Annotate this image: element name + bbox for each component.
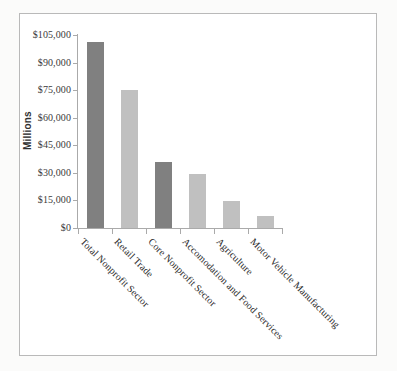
chart-page: Millions $0$15,000$30,000$45,000$60,000$… bbox=[0, 0, 397, 371]
x-axis-category-labels: Total Nonprofit SectorRetail TradeCore N… bbox=[0, 0, 397, 371]
